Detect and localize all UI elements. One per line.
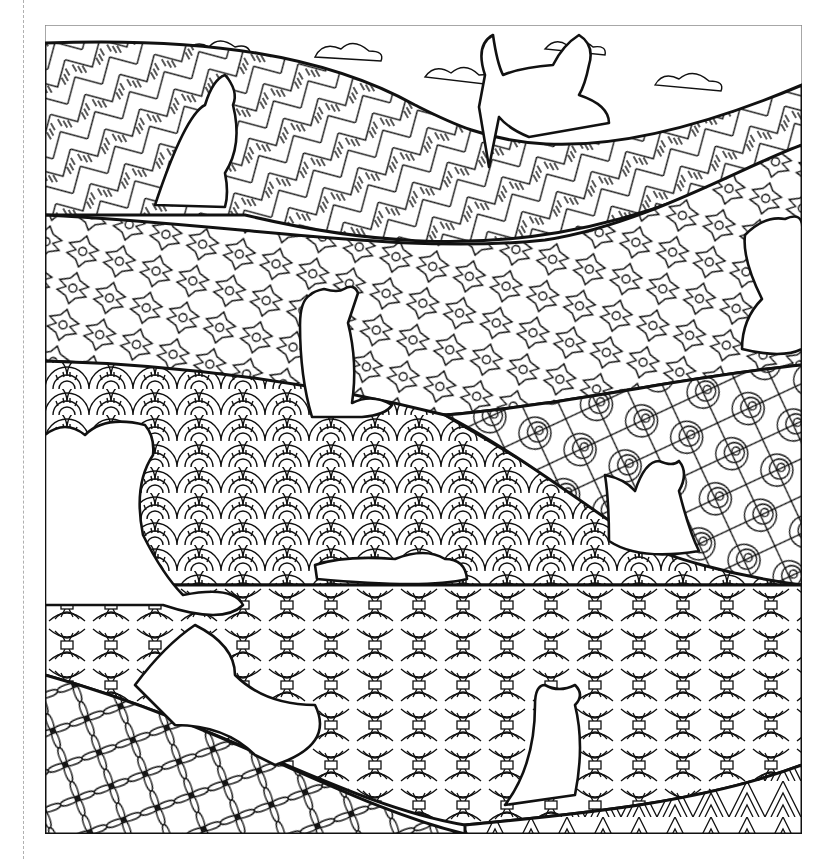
coloring-page-artwork	[45, 25, 802, 834]
cut-line	[23, 0, 24, 859]
